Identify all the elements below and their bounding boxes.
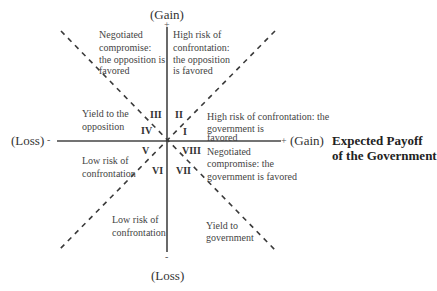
- axis-sign-left: -: [47, 134, 50, 145]
- axis-label-bottom: (Loss): [151, 268, 184, 284]
- octant-label-VI: VI: [152, 165, 163, 176]
- axis-title-line1: Expected Payoff: [332, 133, 423, 148]
- octant-label-II: II: [175, 109, 183, 120]
- axis-label-left: (Loss): [11, 133, 44, 149]
- octant-label-III: III: [150, 109, 162, 120]
- octant-label-VIII: VIII: [182, 145, 201, 156]
- octant-label-I: I: [183, 126, 187, 137]
- axis-sign-top: +: [164, 19, 170, 30]
- octant-label-IV: IV: [141, 125, 152, 136]
- octant-label-V: V: [142, 145, 149, 156]
- axis-label-right: (Gain): [290, 133, 324, 149]
- octant-label-VII: VII: [176, 165, 191, 176]
- axis-sign-bottom: -: [165, 251, 168, 262]
- axis-title-line2: of the Government: [332, 148, 437, 163]
- axis-sign-right: +: [281, 135, 287, 146]
